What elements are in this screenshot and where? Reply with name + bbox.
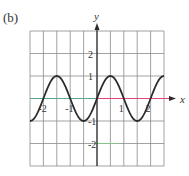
x-tick-label: 2 (146, 103, 151, 114)
y-tick-label: -1 (88, 116, 96, 127)
x-axis-arrow-icon (169, 96, 176, 101)
y-axis-label: y (93, 10, 99, 22)
y-axis-arrow-icon (95, 23, 100, 30)
x-tick-label: -1 (65, 103, 73, 114)
x-tick-label: -2 (38, 103, 46, 114)
axes (30, 23, 176, 166)
x-tick-label: 1 (119, 103, 124, 114)
sine-chart: xy-2-11221-1-2 (0, 0, 189, 176)
x-axis-label: x (179, 93, 185, 105)
y-tick-label: 2 (88, 49, 93, 60)
y-tick-label: -2 (88, 139, 96, 150)
y-tick-label: 1 (88, 71, 93, 82)
